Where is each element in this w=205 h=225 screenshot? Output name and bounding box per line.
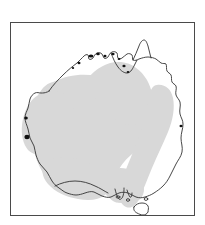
figure-root xyxy=(0,0,205,225)
accent-top-end-2 xyxy=(96,53,100,56)
accent-west-coast-1 xyxy=(24,117,28,120)
accent-top-end-3 xyxy=(104,55,107,57)
accent-kimberley-2 xyxy=(72,67,74,69)
accent-kimberley-1 xyxy=(78,62,81,64)
accent-west-coast-2 xyxy=(24,135,29,139)
accent-top-end-1 xyxy=(89,54,94,57)
accent-east-coast-1 xyxy=(180,125,183,128)
australia-map-svg xyxy=(11,23,194,215)
accent-gulf-2 xyxy=(127,71,130,73)
accent-arnhem-1 xyxy=(111,53,114,55)
map-frame xyxy=(10,22,195,216)
accent-arnhem-2 xyxy=(118,58,121,60)
accent-gulf-1 xyxy=(122,65,125,68)
